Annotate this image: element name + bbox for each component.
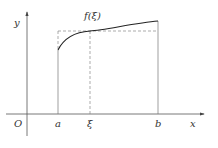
xi-label: ξ	[87, 118, 93, 129]
origin-label: O	[14, 118, 22, 129]
a-label: a	[55, 118, 61, 129]
curve-label: f(ξ)	[83, 10, 101, 21]
b-label: b	[155, 118, 161, 129]
function-curve	[58, 21, 158, 50]
y-axis-label: y	[13, 17, 20, 28]
x-axis-label: x	[190, 118, 196, 129]
integral-mean-value-diagram: y x O a ξ b f(ξ)	[0, 0, 218, 148]
